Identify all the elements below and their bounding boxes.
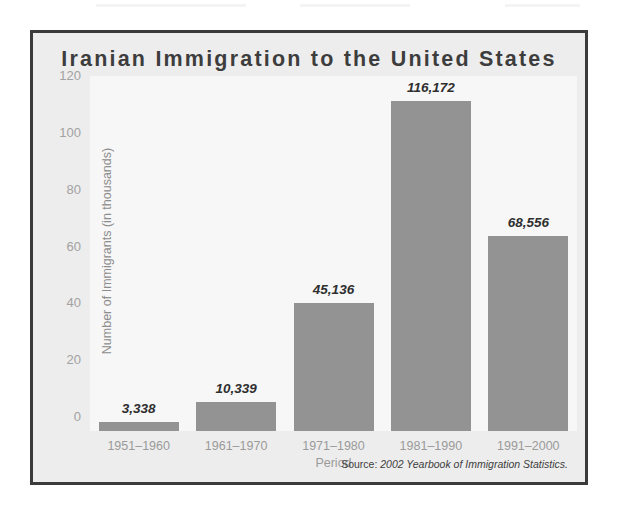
scan-artifact xyxy=(96,4,246,7)
y-axis-tick-label: 120 xyxy=(59,68,81,83)
bar-value-label: 3,338 xyxy=(122,401,156,416)
plot-area: Number of Immigrants (in thousands) 0204… xyxy=(90,76,577,431)
bar-value-label: 45,136 xyxy=(313,282,354,297)
scan-artifact xyxy=(505,4,580,7)
scan-artifact xyxy=(300,4,410,7)
bar[interactable] xyxy=(488,236,568,431)
bar-group: 45,1361971–1980 xyxy=(294,76,374,431)
bar-value-label: 116,172 xyxy=(407,80,455,95)
y-axis-tick-label: 0 xyxy=(74,409,81,424)
x-axis-category-label: 1961–1970 xyxy=(205,439,268,453)
y-axis-tick-label: 60 xyxy=(67,238,81,253)
chart-title: Iranian Immigration to the United States xyxy=(33,47,585,72)
bar[interactable] xyxy=(196,402,276,431)
bar-group: 68,5561991–2000 xyxy=(488,76,568,431)
bar-group: 3,3381951–1960 xyxy=(99,76,179,431)
chart-figure-frame: Iranian Immigration to the United States… xyxy=(30,30,588,485)
x-axis-category-label: 1981–1990 xyxy=(400,439,463,453)
source-note: Source: 2002 Yearbook of Immigration Sta… xyxy=(341,458,568,470)
bar-group: 116,1721981–1990 xyxy=(391,76,471,431)
y-axis-tick-label: 20 xyxy=(67,352,81,367)
x-axis-category-label: 1991–2000 xyxy=(497,439,560,453)
bar[interactable] xyxy=(391,101,471,431)
y-axis-tick-label: 80 xyxy=(67,181,81,196)
y-axis-tick-label: 40 xyxy=(67,295,81,310)
source-title: 2002 Yearbook of Immigration Statistics. xyxy=(380,458,568,470)
bar-value-label: 10,339 xyxy=(215,381,256,396)
bar[interactable] xyxy=(294,303,374,431)
bar-value-label: 68,556 xyxy=(508,215,549,230)
bar[interactable] xyxy=(99,422,179,431)
x-axis-category-label: 1951–1960 xyxy=(107,439,170,453)
x-axis-category-label: 1971–1980 xyxy=(302,439,365,453)
bar-series: 3,3381951–196010,3391961–197045,1361971–… xyxy=(90,76,577,431)
y-axis-tick-label: 100 xyxy=(59,125,81,140)
source-prefix: Source: xyxy=(341,458,380,470)
bar-group: 10,3391961–1970 xyxy=(196,76,276,431)
